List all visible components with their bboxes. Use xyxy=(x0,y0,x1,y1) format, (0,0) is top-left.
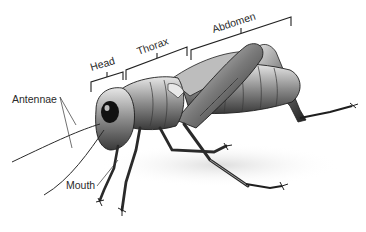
antennae-pointer-1 xyxy=(60,97,76,125)
compound-eye xyxy=(101,101,119,123)
grasshopper-diagram: Head Thorax Abdomen Antennae Mouth xyxy=(0,0,366,232)
grasshopper-illustration xyxy=(0,0,366,232)
label-mouth: Mouth xyxy=(66,180,95,191)
label-antennae: Antennae xyxy=(12,94,57,105)
antennae-pointer-2 xyxy=(60,97,72,148)
head-body xyxy=(96,88,135,150)
